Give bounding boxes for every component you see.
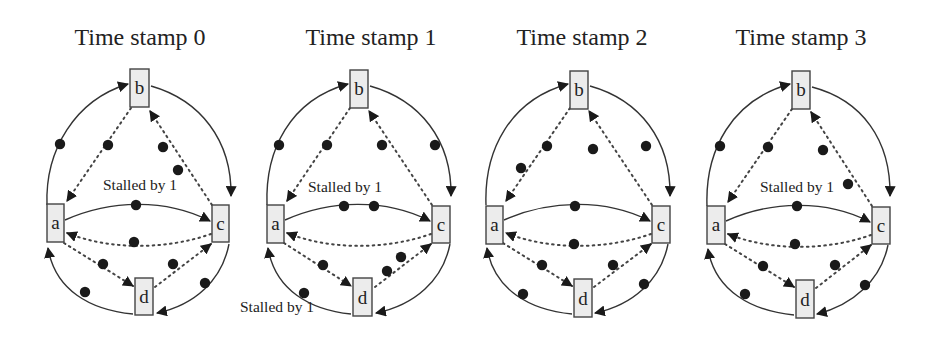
token-dot — [80, 287, 90, 297]
timestamp-diagram-figure: Time stamp 0 a b c d S — [0, 0, 940, 339]
node-b: b — [570, 71, 588, 109]
token-dot — [569, 239, 579, 249]
token-dot — [542, 141, 552, 151]
edge-c-to-d — [157, 244, 229, 313]
token-dot — [200, 278, 210, 288]
token-dot — [131, 200, 141, 210]
token-dot — [339, 201, 349, 211]
panel-timestamp-1: Time stamp 1 a b c d Stalled by 1 Stalle… — [240, 24, 451, 316]
svg-text:b: b — [574, 79, 584, 100]
token-dot — [369, 201, 379, 211]
node-d: d — [574, 279, 592, 317]
node-b: b — [130, 69, 149, 107]
node-c: c — [652, 206, 670, 243]
tokens — [274, 140, 440, 298]
panel-title: Time stamp 2 — [516, 24, 647, 50]
token-dot — [763, 142, 773, 152]
edge-c-to-d — [376, 244, 450, 313]
node-a: a — [267, 205, 284, 243]
token-dot — [830, 260, 840, 270]
token-dot — [792, 201, 802, 211]
token-dot — [318, 260, 328, 270]
svg-text:d: d — [800, 289, 810, 310]
token-dot — [641, 141, 651, 151]
token-dot — [518, 289, 528, 299]
token-dot — [790, 239, 800, 249]
token-dot — [740, 289, 750, 299]
edge-c-to-a — [287, 233, 431, 246]
panel-timestamp-2: Time stamp 2 a b c d — [486, 24, 670, 317]
stalled-label: Stalled by 1 — [240, 298, 314, 315]
token-dot — [382, 266, 392, 276]
token-dot — [588, 144, 598, 154]
svg-text:b: b — [796, 79, 806, 100]
panel-title: Time stamp 1 — [305, 24, 436, 50]
token-dot — [396, 252, 406, 262]
svg-text:a: a — [271, 213, 280, 234]
node-d: d — [135, 278, 153, 315]
svg-text:c: c — [877, 215, 885, 236]
svg-text:d: d — [358, 287, 368, 308]
svg-text:b: b — [354, 78, 364, 99]
node-b: b — [350, 70, 368, 108]
token-dot — [843, 179, 853, 189]
node-d: d — [353, 278, 372, 316]
stalled-label: Stalled by 1 — [308, 178, 382, 195]
tokens — [55, 139, 210, 297]
token-dot — [322, 140, 332, 150]
node-b: b — [792, 71, 810, 109]
token-dot — [98, 259, 108, 269]
tokens — [715, 141, 870, 299]
edge-a-to-c — [285, 204, 430, 221]
token-dot — [274, 140, 284, 150]
token-dot — [639, 279, 649, 289]
svg-text:a: a — [490, 214, 499, 235]
edge-c-to-d — [595, 244, 668, 313]
token-dot — [860, 280, 870, 290]
token-dot — [55, 139, 65, 149]
panel-title: Time stamp 3 — [735, 24, 866, 50]
token-dot — [818, 145, 828, 155]
node-c: c — [212, 205, 229, 242]
token-dot — [570, 201, 580, 211]
token-dot — [430, 140, 440, 150]
edge-a-to-d — [284, 243, 351, 286]
svg-text:d: d — [139, 286, 149, 307]
panel-title: Time stamp 0 — [74, 24, 205, 50]
panel-timestamp-0: Time stamp 0 a b c d S — [47, 24, 231, 315]
token-dot — [537, 260, 547, 270]
edge-d-to-c — [375, 244, 431, 287]
edge-c-to-d — [817, 245, 888, 314]
svg-text:c: c — [216, 213, 224, 234]
token-dot — [158, 142, 168, 152]
token-dot — [299, 288, 309, 298]
edge-d-to-a — [708, 249, 794, 315]
svg-text:a: a — [51, 212, 60, 233]
node-c: c — [432, 206, 450, 243]
edge-a-to-b — [486, 84, 568, 205]
token-dot — [173, 165, 183, 175]
node-d: d — [796, 280, 814, 318]
panel-timestamp-3: Time stamp 3 a b c d Stalled by 1 — [707, 24, 890, 318]
edge-d-to-a — [48, 248, 133, 314]
svg-text:b: b — [135, 77, 145, 98]
token-dot — [168, 259, 178, 269]
svg-text:a: a — [712, 214, 721, 235]
tokens — [516, 141, 651, 299]
stalled-label: Stalled by 1 — [760, 178, 834, 195]
token-dot — [129, 237, 139, 247]
edge-d-to-a — [487, 248, 572, 314]
token-dot — [758, 261, 768, 271]
node-a: a — [707, 206, 725, 244]
svg-text:c: c — [437, 214, 445, 235]
node-c: c — [872, 207, 890, 244]
token-dot — [516, 163, 526, 173]
edge-b-to-a — [506, 108, 570, 201]
edge-c-to-b — [589, 111, 652, 205]
svg-text:c: c — [657, 214, 665, 235]
token-dot — [377, 140, 387, 150]
edge-c-to-a — [67, 233, 211, 246]
node-a: a — [47, 204, 64, 242]
svg-text:d: d — [578, 288, 588, 309]
token-dot — [715, 141, 725, 151]
